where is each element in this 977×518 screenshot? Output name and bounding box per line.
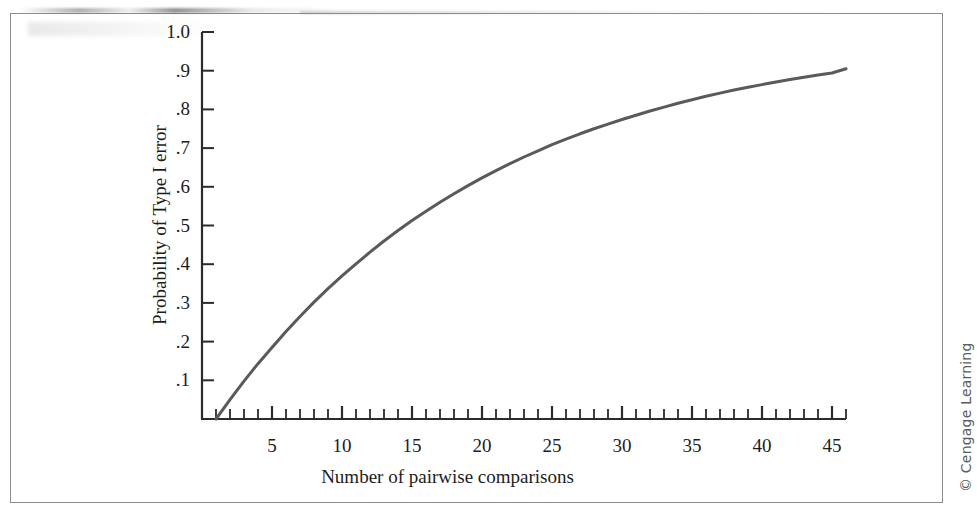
x-tick-label: 10 — [322, 436, 362, 455]
x-axis-ticks — [216, 406, 846, 419]
figure-container: .1.2.3.4.5.6.7.8.91.0 51015202530354045 … — [0, 0, 977, 518]
y-axis-ticks — [202, 32, 214, 380]
y-axis-title: Probability of Type I error — [149, 125, 171, 325]
x-axis-title: Number of pairwise comparisons — [0, 466, 977, 488]
y-tick-label: .2 — [144, 332, 190, 351]
x-axis-title-text: Number of pairwise comparisons — [321, 466, 574, 488]
y-tick-label: .8 — [144, 99, 190, 118]
x-tick-label: 45 — [812, 436, 852, 455]
y-tick-label: 1.0 — [144, 22, 190, 41]
x-tick-label: 20 — [462, 436, 502, 455]
x-tick-label: 40 — [742, 436, 782, 455]
y-tick-label: .1 — [144, 370, 190, 389]
x-tick-label: 25 — [532, 436, 572, 455]
type-i-error-curve — [216, 69, 846, 419]
x-tick-label: 15 — [392, 436, 432, 455]
x-tick-label: 30 — [602, 436, 642, 455]
x-tick-label: 5 — [252, 436, 292, 455]
y-tick-label: .9 — [144, 61, 190, 80]
copyright-credit: © Cengage Learning — [958, 342, 974, 492]
x-tick-label: 35 — [672, 436, 712, 455]
